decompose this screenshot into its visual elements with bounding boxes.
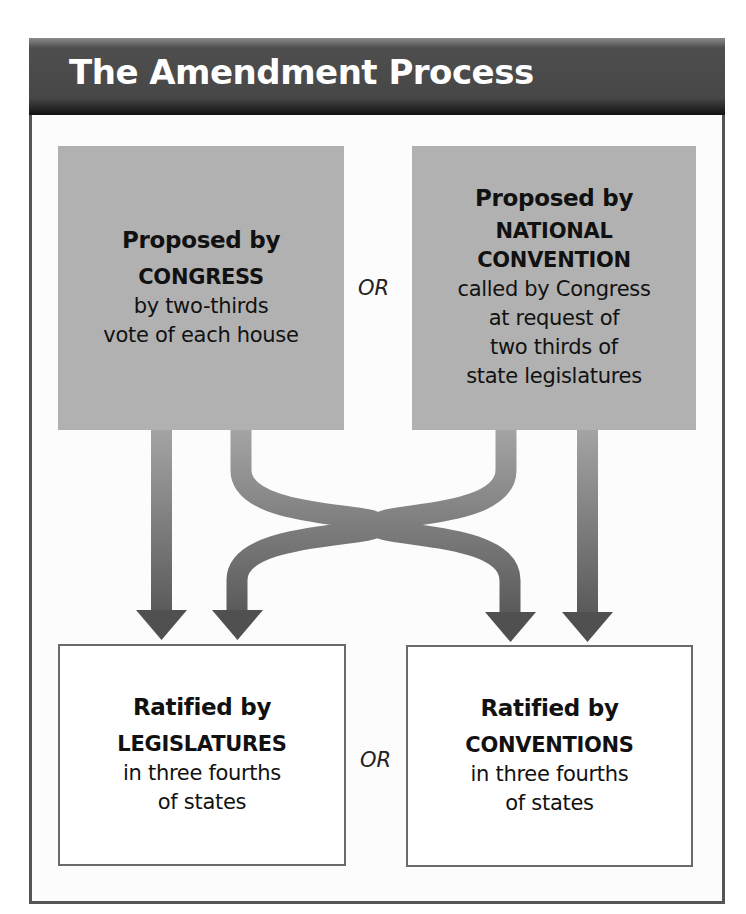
legislatures-lead: Ratified by [133,694,271,720]
conventions-lead: Ratified by [480,695,618,721]
proposal-or-connector: OR [358,276,389,300]
legislatures-desc-line: in three fourths [123,759,281,788]
ratification-or-connector: OR [360,748,391,772]
convention-desc-line: two thirds of [490,333,618,362]
legislatures-desc-line: of states [158,788,246,817]
arrow-convention-to-conventions [562,428,613,642]
convention-key-line: NATIONAL [496,217,613,246]
convention-desc-line: state legislatures [466,362,642,391]
conventions-desc-line: of states [505,789,593,818]
legislatures-key: LEGISLATURES [117,730,286,759]
convention-key-line: CONVENTION [477,246,631,275]
congress-desc-line: vote of each house [103,321,298,350]
arrow-congress-to-legislatures [136,428,187,640]
congress-desc-line: by two-thirds [134,292,269,321]
ratification-conventions-box: Ratified by CONVENTIONS in three fourths… [406,645,693,867]
proposal-congress-box: Proposed by CONGRESS by two-thirds vote … [58,146,344,430]
proposal-convention-box: Proposed by NATIONAL CONVENTION called b… [412,146,696,430]
congress-lead: Proposed by [122,227,280,253]
convention-desc-line: called by Congress [457,275,650,304]
convention-desc-line: at request of [489,304,620,333]
congress-key: CONGRESS [138,263,264,292]
ratification-legislatures-box: Ratified by LEGISLATURES in three fourth… [58,644,346,866]
conventions-desc-line: in three fourths [471,760,629,789]
conventions-key: CONVENTIONS [465,731,633,760]
convention-lead: Proposed by [475,185,633,211]
